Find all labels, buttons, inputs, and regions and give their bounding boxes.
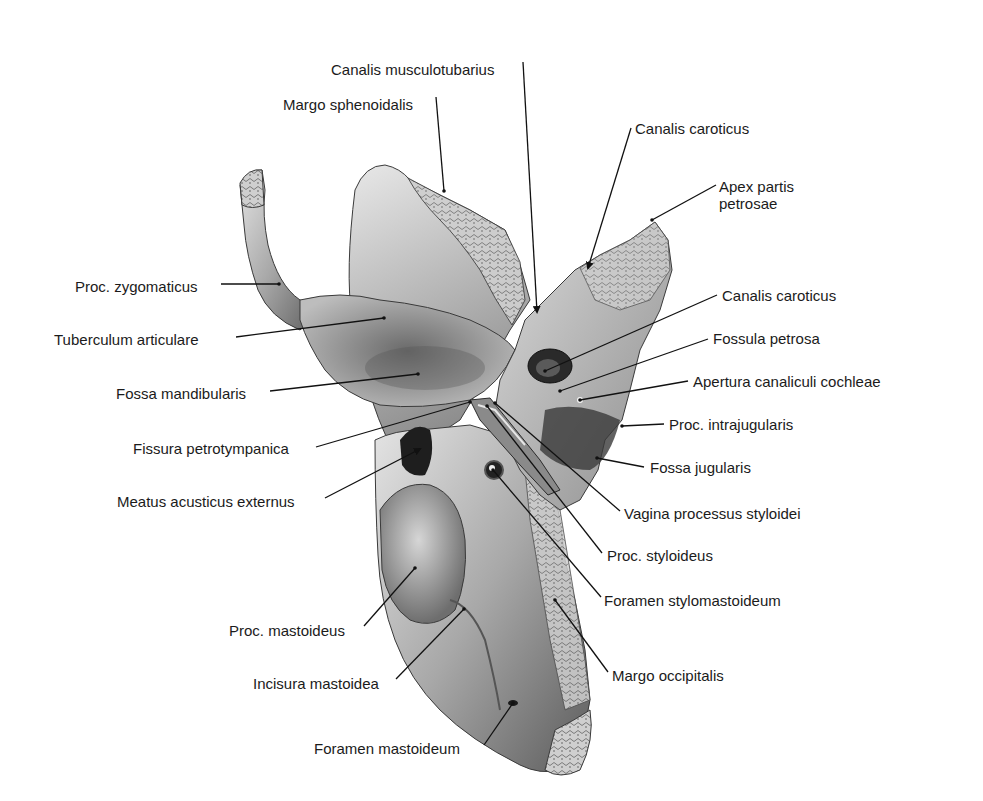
leader-dot	[491, 468, 495, 472]
leader-dot	[277, 282, 281, 286]
label-text: Foramen stylomastoideum	[604, 592, 781, 609]
label-text: Margo occipitalis	[612, 667, 724, 684]
leader-dot	[543, 369, 547, 373]
label-margo-occipitalis: Margo occipitalis	[612, 667, 724, 684]
leader-dot	[558, 389, 562, 393]
label-text: Vagina processus styloidei	[624, 505, 800, 522]
label-text: Proc. styloideus	[607, 547, 713, 564]
label-text: Meatus acusticus externus	[117, 493, 295, 510]
leader-dot	[416, 372, 420, 376]
leader-dot	[442, 189, 446, 193]
label-text: Proc. zygomaticus	[75, 278, 198, 295]
leader-dot	[553, 598, 557, 602]
label-fossula-petrosa: Fossula petrosa	[713, 330, 820, 347]
label-tuberculum-articulare: Tuberculum articulare	[54, 331, 199, 348]
label-proc-mastoideus: Proc. mastoideus	[229, 622, 345, 639]
label-apex-partis-petrosae: Apex partispetrosae	[719, 178, 794, 212]
label-vagina-processus-styloidei: Vagina processus styloidei	[624, 505, 800, 522]
label-text: Fossa jugularis	[650, 459, 751, 476]
leader-dot	[493, 401, 497, 405]
label-text: Fossula petrosa	[713, 330, 820, 347]
leader-line-apex-partis-petrosae	[652, 185, 716, 220]
label-foramen-mastoideum: Foramen mastoideum	[314, 740, 460, 757]
label-margo-sphenoidalis: Margo sphenoidalis	[283, 96, 413, 113]
label-text: Proc. mastoideus	[229, 622, 345, 639]
leader-line-proc-intrajugularis	[622, 424, 664, 426]
label-proc-intrajugularis: Proc. intrajugularis	[669, 416, 793, 433]
label-text: Canalis caroticus	[722, 287, 836, 304]
leader-dot	[620, 424, 624, 428]
label-text: Proc. intrajugularis	[669, 416, 793, 433]
label-apertura-canaliculi-cochleae: Apertura canaliculi cochleae	[693, 373, 881, 390]
label-text: Canalis musculotubarius	[331, 61, 494, 78]
label-text: Foramen mastoideum	[314, 740, 460, 757]
leader-dot	[578, 398, 582, 402]
label-proc-zygomaticus: Proc. zygomaticus	[75, 278, 198, 295]
label-text: Canalis caroticus	[635, 120, 749, 137]
label-text: Fissura petrotympanica	[133, 440, 289, 457]
leader-line-fossa-jugularis	[597, 458, 644, 467]
label-fossa-mandibularis: Fossa mandibularis	[116, 385, 246, 402]
label-proc-styloideus: Proc. styloideus	[607, 547, 713, 564]
label-text-line2: petrosae	[719, 195, 794, 212]
label-text: Apex partis	[719, 178, 794, 195]
leader-dot	[413, 566, 417, 570]
label-text: Tuberculum articulare	[54, 331, 199, 348]
label-fossa-jugularis: Fossa jugularis	[650, 459, 751, 476]
label-canalis-caroticus-top: Canalis caroticus	[635, 120, 749, 137]
leader-dot	[468, 400, 472, 404]
leader-dot	[595, 456, 599, 460]
label-fissura-petrotympanica: Fissura petrotympanica	[133, 440, 289, 457]
label-text: Fossa mandibularis	[116, 385, 246, 402]
label-canalis-musculotubarius: Canalis musculotubarius	[331, 61, 494, 78]
leader-line-margo-sphenoidalis	[436, 97, 444, 191]
label-incisura-mastoidea: Incisura mastoidea	[253, 675, 379, 692]
label-canalis-caroticus-mid: Canalis caroticus	[722, 287, 836, 304]
leader-dot	[462, 607, 466, 611]
leader-dot	[382, 316, 386, 320]
label-meatus-acusticus-externus: Meatus acusticus externus	[117, 493, 295, 510]
leader-dot	[511, 701, 515, 705]
anatomy-figure: Canalis musculotubariusMargo sphenoidali…	[0, 0, 983, 801]
leader-line-canalis-musculotubarius	[523, 62, 537, 312]
label-text: Incisura mastoidea	[253, 675, 379, 692]
label-foramen-stylomastoideum: Foramen stylomastoideum	[604, 592, 781, 609]
label-text: Apertura canaliculi cochleae	[693, 373, 881, 390]
leader-dot	[485, 404, 489, 408]
leader-dot	[650, 218, 654, 222]
label-text: Margo sphenoidalis	[283, 96, 413, 113]
